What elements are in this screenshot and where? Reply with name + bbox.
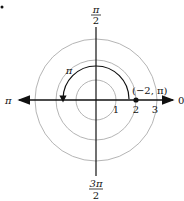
svg-text:π: π — [92, 4, 100, 15]
point-label: (−2, π) — [132, 85, 168, 96]
svg-text:2: 2 — [93, 190, 99, 201]
label-3pi-over-2: 3π 2 — [89, 178, 103, 201]
svg-text:2: 2 — [93, 15, 99, 26]
plotted-point — [133, 97, 138, 102]
label-pi-over-2: π 2 — [91, 4, 101, 26]
label-pi-left: π — [4, 95, 12, 106]
arc-label-pi: π — [65, 65, 73, 76]
tick-1: 1 — [113, 104, 119, 115]
tick-2: 2 — [133, 104, 139, 115]
tick-3: 3 — [152, 104, 158, 115]
svg-text:3π: 3π — [90, 178, 103, 189]
label-zero: 0 — [178, 95, 184, 106]
corner-dot — [1, 6, 4, 9]
polar-diagram: π 2 3π 2 π 0 1 2 3 π (−2, π) — [0, 0, 184, 201]
